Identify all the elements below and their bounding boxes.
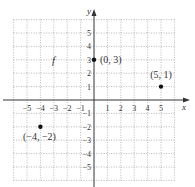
x-tick-label: −5 [23,104,32,113]
y-axis-label: y [86,6,91,16]
y-tick-label: −3 [82,136,91,145]
y-tick-label: −4 [82,150,91,159]
y-tick-label: −1 [82,109,91,118]
data-point [38,125,42,129]
y-tick-label: 5 [87,29,91,38]
axes [3,9,190,187]
x-tick-label: 3 [132,104,136,113]
x-tick-label: 2 [119,104,123,113]
coordinate-plane: −5−4−3−2−112345−5−4−3−2−112345 (0, 3)(5,… [0,0,195,187]
x-tick-label: 5 [159,104,163,113]
y-tick-label: 1 [87,83,91,92]
x-tick-label: 1 [105,104,109,113]
point-label: (0, 3) [100,54,122,66]
x-tick-label: 4 [146,104,150,113]
x-axis-label: x [181,102,186,112]
y-axis-arrow-icon [92,9,97,16]
y-tick-label: −5 [82,163,91,172]
y-tick-label: 4 [87,42,91,51]
y-tick-label: −2 [82,123,91,132]
data-point [159,84,163,88]
x-tick-label: −4 [36,104,45,113]
x-tick-label: −3 [50,104,59,113]
y-tick-label: 3 [87,56,91,65]
data-point [92,58,96,62]
data-points: (0, 3)(5, 1)(−4, −2) [23,54,172,143]
y-tick-label: 2 [87,69,91,78]
point-label: (−4, −2) [23,131,56,143]
x-tick-label: −2 [63,104,72,113]
point-label: (5, 1) [150,69,172,81]
